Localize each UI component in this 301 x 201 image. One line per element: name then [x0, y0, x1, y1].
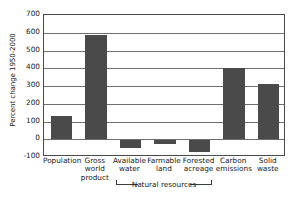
- x-category-label: Farmable land: [147, 157, 182, 174]
- x-category-label: Forested acreage: [181, 157, 216, 174]
- y-tick-label: 300: [14, 81, 40, 89]
- bar: [258, 84, 279, 139]
- y-tick-label: 500: [14, 46, 40, 54]
- x-category-label: Available water: [112, 157, 147, 174]
- x-category-label: Carbon emissions: [216, 157, 251, 174]
- y-tick-label: 200: [14, 99, 40, 107]
- gridline: [44, 86, 284, 87]
- y-tick-label: 700: [14, 10, 40, 18]
- bar: [223, 68, 244, 139]
- bracket-label: Natural resources: [116, 180, 213, 189]
- x-category-label: Gross world product: [78, 157, 113, 182]
- x-category-label: Solid waste: [250, 157, 285, 174]
- plot-area: [43, 14, 285, 156]
- y-tick-label: 400: [14, 63, 40, 71]
- gridline: [44, 33, 284, 34]
- bar: [120, 139, 141, 148]
- gridline: [44, 68, 284, 69]
- bar-chart: Percent change 1950-2000 700600500400300…: [0, 0, 301, 201]
- gridline: [44, 51, 284, 52]
- gridline: [44, 122, 284, 123]
- y-tick-label: 100: [14, 117, 40, 125]
- y-tick-label: 600: [14, 28, 40, 36]
- y-tick-label: -100: [14, 152, 40, 160]
- y-axis-tick-labels: 7006005004003002001000-100: [14, 0, 40, 201]
- gridline: [44, 104, 284, 105]
- natural-resources-bracket: Natural resources: [116, 180, 213, 192]
- x-category-label: Population: [43, 157, 78, 165]
- bar: [85, 35, 106, 139]
- y-tick-label: 0: [14, 134, 40, 142]
- bar: [51, 116, 72, 139]
- zero-baseline: [44, 139, 284, 140]
- bar: [189, 139, 210, 152]
